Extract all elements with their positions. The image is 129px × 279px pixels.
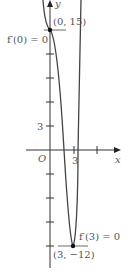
y-axis-arrow-icon bbox=[47, 0, 53, 7]
min-derivative-annotation: f′(3) = 0 bbox=[79, 232, 120, 242]
x-axis-arrow-icon bbox=[114, 147, 121, 153]
min-point-label: (3, −12) bbox=[53, 250, 95, 260]
origin-label: O bbox=[38, 154, 46, 164]
cubic-curve bbox=[43, 0, 81, 246]
y-axis-label: y bbox=[55, 0, 61, 9]
x-tick-label-3: 3 bbox=[72, 156, 78, 166]
local-max-point bbox=[48, 28, 52, 32]
max-point-label: (0, 15) bbox=[53, 17, 86, 27]
local-min-point bbox=[71, 244, 75, 248]
max-derivative-annotation: f′(0) = 0 bbox=[7, 35, 48, 45]
x-axis-label: x bbox=[115, 155, 121, 165]
y-tick-label-3: 3 bbox=[37, 122, 43, 132]
